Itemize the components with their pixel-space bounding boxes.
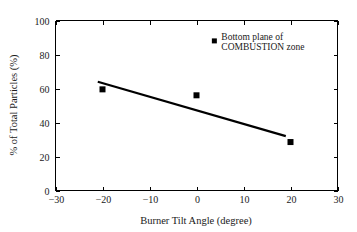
chart-figure: −30−20−100102030 020406080100 Bottom pla… — [0, 0, 357, 232]
x-tick-label: −10 — [143, 194, 159, 205]
y-tick-label: 40 — [40, 118, 50, 129]
x-tick-label: 30 — [334, 194, 344, 205]
x-tick-label: 20 — [287, 194, 297, 205]
legend-marker — [212, 38, 217, 43]
legend-label-line1: Bottom plane of — [221, 32, 284, 42]
x-tick-label: −20 — [96, 194, 112, 205]
y-tick-label: 0 — [45, 186, 50, 197]
y-tick-label: 80 — [40, 50, 50, 61]
x-tick-label: 0 — [195, 194, 200, 205]
y-tick-label: 100 — [35, 16, 50, 27]
y-tick-label: 60 — [40, 84, 50, 95]
x-tick-label: 10 — [240, 194, 250, 205]
data-point-marker — [194, 92, 200, 98]
x-tick-label: −30 — [49, 194, 65, 205]
data-point-marker — [100, 86, 106, 92]
x-axis-title: Burner Tilt Angle (degree) — [140, 215, 252, 227]
legend-label-line2: COMBUSTION zone — [221, 42, 304, 52]
y-tick-label: 20 — [40, 152, 50, 163]
y-axis-title: % of Total Particles (%) — [8, 54, 20, 156]
data-point-marker — [288, 139, 294, 145]
chart-canvas: −30−20−100102030 020406080100 Bottom pla… — [0, 0, 357, 232]
